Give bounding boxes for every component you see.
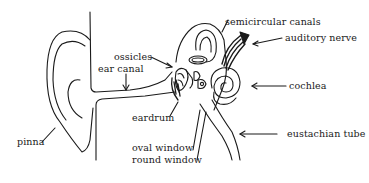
label-eardrum: eardrum (132, 113, 174, 123)
ear-diagram: semicircular canals auditory nerve ossic… (0, 0, 369, 183)
label-round-window: round window (132, 155, 202, 165)
pinna-helix (53, 41, 85, 120)
eardrum-shape (172, 78, 180, 100)
semicircular-canal-1 (196, 30, 217, 62)
label-cochlea: cochlea (289, 81, 327, 91)
label-auditory-nerve: auditory nerve (285, 33, 357, 43)
eustachian-tube (200, 104, 232, 160)
label-oval-window: oval window (132, 143, 193, 153)
cochlea-spiral (211, 68, 240, 98)
label-ossicles: ossicles (114, 52, 152, 62)
label-ear-canal: ear canal (98, 64, 144, 74)
auditory-nerve (222, 34, 245, 70)
label-eustachian-tube: eustachian tube (287, 129, 366, 139)
label-semicircular-canals: semicircular canals (225, 17, 321, 27)
label-pinna: pinna (17, 137, 45, 147)
pinna-antihelix (68, 80, 82, 118)
semicircular-canal-2 (200, 37, 211, 52)
